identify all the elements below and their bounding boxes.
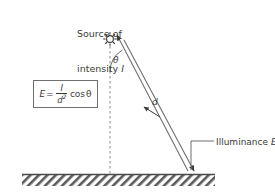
formula-lhs: E [39, 89, 45, 99]
illuminance-symbol: E [271, 137, 275, 147]
hatched-ground-icon [22, 175, 215, 187]
formula-box: E = I d2 cos θ [33, 80, 98, 108]
source-label-line1: Source of [77, 28, 124, 40]
physics-illuminance-diagram: Source of intensity I θ d Illuminance E … [0, 0, 275, 193]
intensity-symbol: I [121, 63, 124, 74]
formula-denominator: d2 [56, 94, 67, 104]
formula-numerator: I [60, 84, 65, 93]
illuminance-label: Illuminance E [216, 137, 275, 148]
formula-fraction: I d2 [56, 84, 67, 104]
theta-label: θ [113, 55, 119, 66]
illuminance-formula: E = I d2 cos θ [39, 84, 91, 104]
formula-equals: = [46, 89, 54, 99]
formula-denominator-exponent: 2 [63, 93, 67, 100]
illuminance-label-prefix: Illuminance [216, 137, 271, 147]
formula-trig: cos [70, 89, 85, 99]
leader-line-icon [191, 141, 214, 170]
formula-angle: θ [86, 89, 92, 99]
distance-label: d [152, 97, 158, 108]
